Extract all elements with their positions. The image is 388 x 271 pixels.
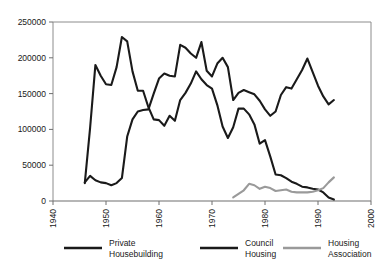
x-tick-label: 1960 — [154, 209, 164, 228]
x-tick-label: 1950 — [101, 209, 111, 228]
x-tick-label: 1980 — [260, 209, 270, 228]
legend-label-line2: Housing — [245, 249, 276, 259]
housing-completions-chart: 050000100000150000200000250000 194019501… — [0, 0, 388, 271]
chart-canvas: 050000100000150000200000250000 194019501… — [0, 0, 388, 271]
y-tick-label: 250000 — [18, 17, 47, 27]
x-tick-label: 1990 — [313, 209, 323, 228]
y-tick-label: 0 — [41, 196, 46, 206]
chart-background — [0, 0, 388, 271]
legend-label-line1: Housing — [328, 238, 359, 248]
x-tick-label: 2000 — [366, 209, 376, 228]
legend-label-line1: Private — [109, 238, 136, 248]
legend-label-line2: Housebuilding — [109, 249, 163, 259]
y-tick-label: 200000 — [18, 53, 47, 63]
x-tick-label: 1940 — [48, 209, 58, 228]
y-tick-label: 100000 — [18, 124, 47, 134]
y-tick-label: 150000 — [18, 89, 47, 99]
y-tick-label: 50000 — [22, 160, 46, 170]
legend-label-line1: Council — [245, 238, 273, 248]
legend-label-line2: Association — [328, 249, 372, 259]
x-tick-label: 1970 — [207, 209, 217, 228]
